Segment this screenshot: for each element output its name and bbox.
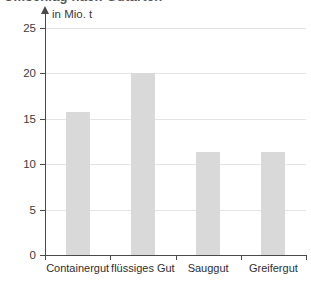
x-tick-mark-4 xyxy=(306,255,307,260)
y-tick-label-0: 0 xyxy=(2,249,36,261)
y-tick-label-5: 5 xyxy=(2,204,36,216)
x-tick-mark-2 xyxy=(176,255,177,260)
chart-title-text: Umschlag nach Gutarten xyxy=(4,0,162,4)
bar-series xyxy=(45,28,306,255)
y-axis-unit-label: in Mio. t xyxy=(52,8,92,20)
x-label-1: Containergut xyxy=(46,262,109,274)
x-label-2: flüssiges Gut xyxy=(111,262,175,274)
x-label-3: Sauggut xyxy=(188,262,229,274)
bar-1 xyxy=(66,112,90,255)
y-axis-arrow-icon xyxy=(41,6,49,14)
y-tick-label-10: 10 xyxy=(2,158,36,170)
y-tick-label-15: 15 xyxy=(2,113,36,125)
bar-chart: Umschlag nach Gutarten in Mio. t 0510152… xyxy=(0,0,311,281)
x-tick-mark-0 xyxy=(45,255,46,260)
x-label-4: Greifergut xyxy=(249,262,298,274)
y-tick-label-20: 20 xyxy=(2,67,36,79)
bar-4 xyxy=(261,152,285,255)
bar-3 xyxy=(196,152,220,255)
x-tick-mark-1 xyxy=(110,255,111,260)
y-tick-label-25: 25 xyxy=(2,22,36,34)
bar-2 xyxy=(131,73,155,255)
x-tick-mark-3 xyxy=(241,255,242,260)
